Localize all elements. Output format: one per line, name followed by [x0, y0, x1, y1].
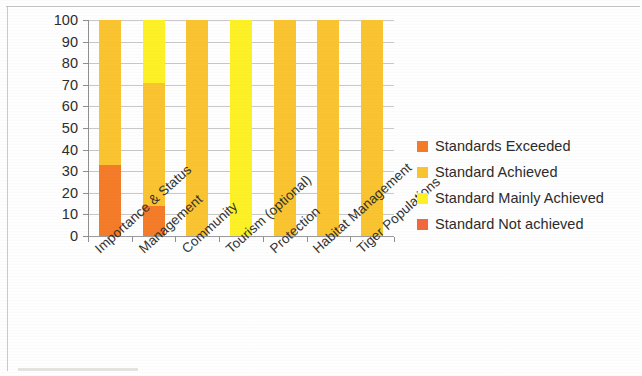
legend-swatch-icon — [417, 193, 428, 204]
y-axis-tick-label: 90 — [28, 34, 78, 50]
x-axis-tick — [394, 237, 395, 242]
x-axis-tick — [307, 237, 308, 242]
legend-item[interactable]: Standards Exceeded — [417, 133, 637, 159]
y-axis-tick — [83, 42, 89, 43]
y-axis-tick-label: 70 — [28, 77, 78, 93]
legend-swatch-icon — [417, 167, 428, 178]
plot-area — [88, 20, 394, 236]
y-axis-tick — [83, 171, 89, 172]
y-axis-tick — [83, 106, 89, 107]
x-axis-tick — [219, 237, 220, 242]
bar[interactable] — [317, 20, 339, 236]
y-axis-tick — [83, 20, 89, 21]
y-axis-tick-label: 50 — [28, 120, 78, 136]
y-axis-tick-label: 20 — [28, 185, 78, 201]
y-axis-tick — [83, 85, 89, 86]
x-axis-tick — [350, 237, 351, 242]
legend-swatch-icon — [417, 219, 428, 230]
legend-item-label: Standard Not achieved — [435, 216, 584, 232]
y-axis-tick-label: 0 — [28, 228, 78, 244]
y-axis-tick — [83, 214, 89, 215]
x-axis-tick — [263, 237, 264, 242]
bar-segment[interactable] — [317, 20, 339, 236]
bar-segment[interactable] — [99, 20, 121, 165]
x-axis-tick — [175, 237, 176, 242]
y-axis-tick-label: 80 — [28, 55, 78, 71]
y-axis-tick — [83, 150, 89, 151]
legend-item-label: Standard Achieved — [435, 164, 558, 180]
chart-legend: Standards ExceededStandard AchievedStand… — [417, 133, 637, 237]
legend-item-label: Standards Exceeded — [435, 138, 571, 154]
y-axis-tick-label: 100 — [28, 12, 78, 28]
bar-segment[interactable] — [143, 20, 165, 83]
y-axis-tick-label: 10 — [28, 206, 78, 222]
y-axis-tick — [83, 193, 89, 194]
x-axis-tick — [88, 237, 89, 242]
x-axis-tick — [132, 237, 133, 242]
y-axis-tick — [83, 63, 89, 64]
legend-swatch-icon — [417, 141, 428, 152]
legend-item[interactable]: Standard Achieved — [417, 159, 637, 185]
bar[interactable] — [99, 20, 121, 236]
legend-item-label: Standard Mainly Achieved — [435, 190, 604, 206]
legend-item[interactable]: Standard Not achieved — [417, 211, 637, 237]
y-axis-tick — [83, 128, 89, 129]
stacked-bar-chart: 1009080706050403020100 Importance & Stat… — [0, 0, 642, 376]
y-axis-tick-label: 30 — [28, 163, 78, 179]
y-axis-tick-label: 60 — [28, 98, 78, 114]
y-axis-tick-label: 40 — [28, 142, 78, 158]
legend-item[interactable]: Standard Mainly Achieved — [417, 185, 637, 211]
